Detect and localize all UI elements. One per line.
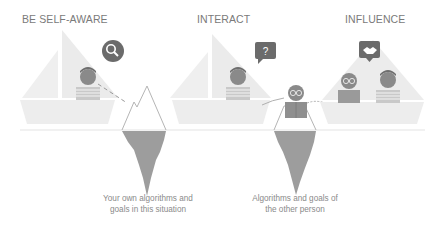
iceberg-underwater bbox=[122, 131, 166, 196]
caption-other-line2: the other person bbox=[225, 204, 365, 215]
caption-own-line2: goals in this situation bbox=[78, 204, 218, 215]
question-bubble-icon: ? bbox=[255, 42, 276, 64]
iceberg-other bbox=[274, 85, 335, 195]
hull bbox=[20, 100, 115, 124]
illustration: ? bbox=[0, 0, 442, 226]
magnifier-icon bbox=[102, 40, 124, 62]
scene-graphic: ? bbox=[0, 0, 442, 226]
caption-other-algorithms: Algorithms and goals of the other person bbox=[225, 193, 365, 215]
heading-be-self-aware: BE SELF-AWARE bbox=[22, 13, 108, 25]
boat-self bbox=[20, 30, 127, 124]
svg-text:?: ? bbox=[263, 46, 269, 57]
boat-influence bbox=[320, 40, 424, 124]
heading-interact: INTERACT bbox=[197, 13, 250, 25]
caption-other-line1: Algorithms and goals of bbox=[225, 193, 365, 204]
caption-own-algorithms: Your own algorithms and goals in this si… bbox=[78, 193, 218, 215]
boat-interact: ? bbox=[170, 34, 276, 124]
heading-influence: INFLUENCE bbox=[345, 13, 405, 25]
sail-left bbox=[22, 50, 58, 98]
caption-own-line1: Your own algorithms and bbox=[78, 193, 218, 204]
iceberg-self bbox=[122, 86, 166, 196]
person-other bbox=[285, 85, 307, 118]
